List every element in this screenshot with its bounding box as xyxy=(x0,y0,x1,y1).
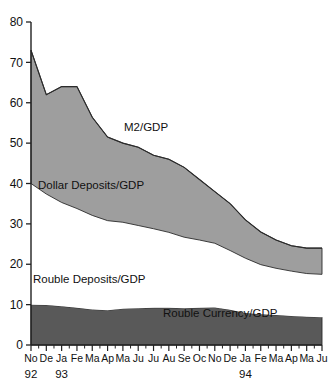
stacked-area-chart: 01020304050607080 NoDeJaFeMaApMaJuJuAuSe… xyxy=(0,0,331,387)
y-tick-label: 30 xyxy=(10,217,24,231)
x-axis-year-label: 93 xyxy=(55,368,68,380)
x-tick-label: Ap xyxy=(285,352,298,364)
y-tick-label: 50 xyxy=(10,136,24,150)
x-tick-label: Se xyxy=(178,352,191,364)
y-tick-label: 10 xyxy=(10,298,24,312)
series-label-rouble-deposits-gdp: Rouble Deposits/GDP xyxy=(33,273,146,285)
x-tick-label: Ap xyxy=(101,352,114,364)
y-tick-label: 70 xyxy=(10,56,24,70)
x-tick-label: De xyxy=(223,352,237,364)
x-tick-label: Ju xyxy=(316,352,327,364)
x-axis-year-label: 92 xyxy=(25,368,38,380)
y-tick-label: 80 xyxy=(10,15,24,29)
x-axis-year-label: 94 xyxy=(239,368,252,380)
x-tick-label: Au xyxy=(162,352,175,364)
y-tick-label: 40 xyxy=(10,177,24,191)
x-tick-label: Ju xyxy=(148,352,159,364)
y-tick-label: 0 xyxy=(16,338,23,352)
chart-container: 01020304050607080 NoDeJaFeMaApMaJuJuAuSe… xyxy=(0,0,331,387)
x-tick-label: Fe xyxy=(71,352,83,364)
x-tick-label: De xyxy=(40,352,54,364)
x-tick-label: Fe xyxy=(255,352,267,364)
x-tick-label: Ja xyxy=(240,352,251,364)
y-tick-label: 60 xyxy=(10,96,24,110)
x-tick-label: Ma xyxy=(116,352,131,364)
x-tick-label: Ja xyxy=(56,352,67,364)
x-tick-label: Ju xyxy=(133,352,144,364)
x-tick-label: Ma xyxy=(299,352,314,364)
x-tick-label: Ma xyxy=(85,352,100,364)
x-tick-label: No xyxy=(208,352,222,364)
series-label-rouble-currency-gdp: Rouble Currency/GDP xyxy=(163,307,278,319)
x-tick-label: Ma xyxy=(269,352,284,364)
y-tick-label: 20 xyxy=(10,257,24,271)
series-label-dollar-deposits-gdp: Dollar Deposits/GDP xyxy=(38,179,144,191)
x-tick-label: Oc xyxy=(193,352,206,364)
x-tick-label: No xyxy=(24,352,38,364)
series-label-m2-gdp: M2/GDP xyxy=(124,121,168,133)
